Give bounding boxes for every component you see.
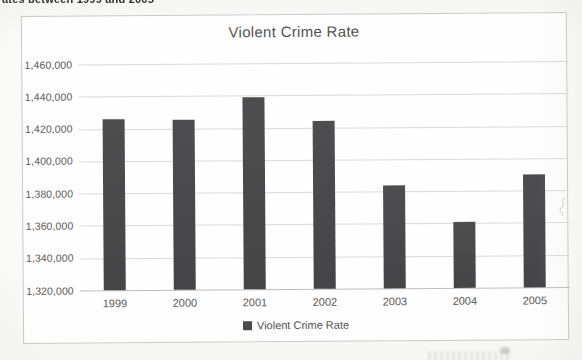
bar-2000 [173, 119, 196, 289]
legend-label: Violent Crime Rate [257, 319, 349, 332]
y-tick-label: 1,340,000 [24, 252, 74, 264]
x-tick-label-2000: 2000 [150, 297, 220, 309]
x-tick-label-1999: 1999 [80, 297, 150, 309]
bar-2002 [313, 121, 336, 289]
chart-container: Violent Crime Rate 1,460,0001,440,0001,4… [21, 12, 569, 344]
gridline-1440000 [78, 93, 568, 97]
scanned-page: ates between 1999 and 2005 Violent Crime… [0, 0, 582, 360]
x-tick-label-2005: 2005 [500, 294, 570, 306]
scan-smudge-artifact-small [500, 347, 510, 354]
bar-2001 [242, 97, 265, 289]
x-axis-labels: 1999200020012002200320042005 [22, 13, 566, 17]
bar-1999 [103, 119, 126, 290]
x-tick-label-2004: 2004 [430, 295, 500, 307]
scan-smudge-artifact [428, 351, 510, 360]
y-tick-label: 1,320,000 [24, 284, 74, 296]
bars-layer [22, 13, 566, 17]
x-tick-label-2003: 2003 [360, 295, 430, 307]
legend-marker-square [243, 321, 252, 330]
scan-squiggle-artifact [556, 196, 570, 218]
bar-2005 [523, 174, 546, 287]
plot-area: 1,460,0001,440,0001,420,0001,400,0001,38… [22, 13, 568, 343]
y-tick-label: 1,440,000 [22, 90, 72, 102]
y-axis-labels: 1,460,0001,440,0001,420,0001,400,0001,38… [22, 13, 566, 17]
y-tick-label: 1,420,000 [23, 123, 73, 135]
gridline-1460000 [78, 61, 568, 65]
y-tick-label: 1,380,000 [23, 187, 73, 199]
gridlines-layer [22, 13, 566, 17]
x-tick-label-2001: 2001 [220, 296, 290, 308]
y-tick-label: 1,360,000 [23, 219, 73, 231]
x-tick-label-2002: 2002 [290, 296, 360, 308]
y-tick-label: 1,400,000 [23, 155, 73, 167]
y-tick-label: 1,460,000 [22, 58, 72, 70]
bar-2004 [453, 222, 475, 288]
clipped-header-text: ates between 1999 and 2005 [2, 0, 154, 6]
bar-2003 [383, 185, 406, 288]
